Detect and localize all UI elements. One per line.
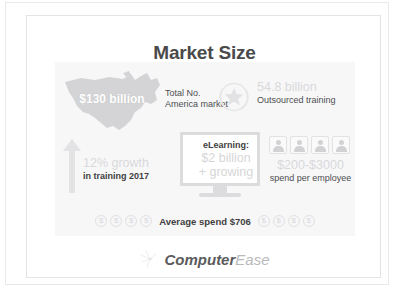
dollar-coin-icon: $ bbox=[110, 215, 122, 227]
person-head bbox=[297, 140, 302, 145]
elearning-label: eLearning: bbox=[186, 140, 266, 150]
outsourced-caption: Outsourced training bbox=[257, 95, 336, 105]
star-badge-icon bbox=[215, 78, 253, 116]
growth-caption: in training 2017 bbox=[83, 171, 149, 181]
person-body bbox=[315, 146, 326, 152]
stat-spend-per-employee: $200-$3000 spend per employee bbox=[263, 134, 358, 196]
content-panel: $130 billion Total No. America market 54 bbox=[55, 62, 355, 236]
average-spend-label: Average spend $706 bbox=[155, 216, 255, 227]
slide-outer-frame: Market Size $130 billion Total No. Ameri… bbox=[5, 2, 389, 285]
outsourced-value: 54.8 billion bbox=[257, 80, 317, 94]
person-head bbox=[339, 140, 344, 145]
logo-secondary: Ease bbox=[235, 251, 269, 268]
elearning-value-line1: $2 billion bbox=[186, 151, 266, 165]
person-icon bbox=[332, 136, 350, 154]
growth-value: 12% growth bbox=[83, 156, 149, 170]
logo-text: ComputerEase bbox=[164, 251, 269, 268]
spend-caption: spend per employee bbox=[259, 173, 362, 183]
dollar-coin-icon: $ bbox=[303, 215, 315, 227]
page-title: Market Size bbox=[27, 42, 382, 64]
spend-value: $200-$3000 bbox=[263, 158, 358, 172]
slide-card: Market Size $130 billion Total No. Ameri… bbox=[26, 15, 381, 278]
dollar-coin-icon: $ bbox=[140, 215, 152, 227]
stat-elearning: eLearning: $2 billion + growing bbox=[177, 132, 263, 204]
person-body bbox=[336, 146, 347, 152]
person-body bbox=[294, 146, 305, 152]
average-spend-row: $ $ $ $ Average spend $706 $ $ $ $ bbox=[55, 210, 355, 232]
monitor-neck bbox=[213, 186, 227, 193]
up-arrow-icon bbox=[61, 138, 83, 194]
monitor-icon: eLearning: $2 billion + growing bbox=[177, 132, 263, 204]
person-icon bbox=[269, 136, 287, 154]
people-icon-group bbox=[269, 136, 353, 156]
elearning-value: $2 billion + growing bbox=[186, 151, 266, 179]
person-body bbox=[273, 146, 284, 152]
dollar-coin-icon: $ bbox=[273, 215, 285, 227]
person-icon bbox=[311, 136, 329, 154]
person-head bbox=[318, 140, 323, 145]
sparkle-icon bbox=[139, 249, 161, 269]
footer-logo: ComputerEase bbox=[27, 244, 382, 274]
dollar-coin-icon: $ bbox=[288, 215, 300, 227]
dollar-coin-icon: $ bbox=[95, 215, 107, 227]
market-value: $130 billion bbox=[63, 92, 161, 106]
person-head bbox=[276, 140, 281, 145]
dollar-coin-icon: $ bbox=[125, 215, 137, 227]
monitor-base bbox=[199, 193, 241, 197]
logo-primary: Computer bbox=[164, 251, 235, 268]
stat-training-growth: 12% growth in training 2017 bbox=[55, 136, 183, 198]
person-icon bbox=[290, 136, 308, 154]
stat-market-size: $130 billion Total No. America market bbox=[55, 64, 215, 136]
elearning-value-line2: + growing bbox=[186, 165, 266, 179]
stat-outsourced-training: 54.8 billion Outsourced training bbox=[215, 72, 355, 122]
monitor-screen: eLearning: $2 billion + growing bbox=[180, 132, 260, 186]
dollar-coin-icon: $ bbox=[258, 215, 270, 227]
